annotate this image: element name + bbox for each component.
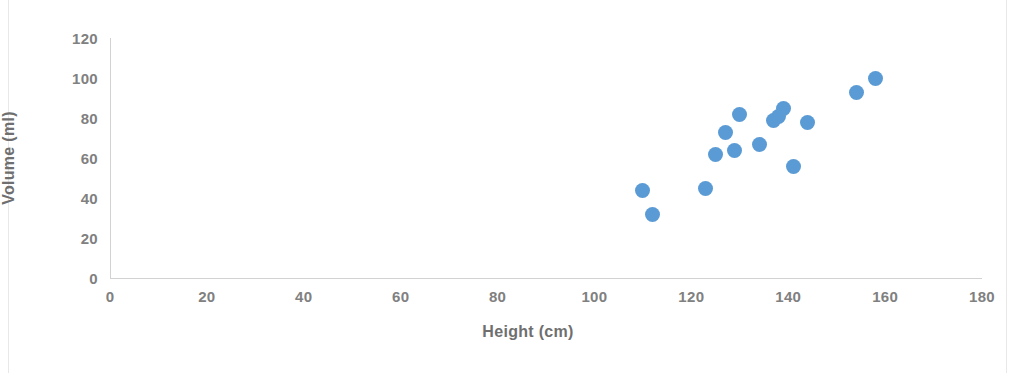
x-tick-label: 80 (489, 288, 506, 305)
x-axis-title: Height (cm) (482, 323, 573, 341)
scatter-chart-figure: 020406080100120 020406080100120140160180… (0, 0, 1016, 373)
data-point-marker (849, 85, 864, 100)
data-point-marker (645, 207, 660, 222)
data-point-marker (800, 115, 815, 130)
y-tick-label: 60 (81, 150, 98, 167)
x-tick-label: 20 (198, 288, 215, 305)
x-tick-label: 140 (775, 288, 801, 305)
data-point-marker (752, 137, 767, 152)
x-tick-label: 60 (392, 288, 409, 305)
data-point-marker (635, 183, 650, 198)
x-tick-label: 160 (872, 288, 898, 305)
y-tick-label: 120 (72, 30, 98, 47)
y-tick-label: 0 (89, 270, 98, 287)
data-point-marker (732, 107, 747, 122)
data-point-marker (868, 71, 883, 86)
page-edge-line-right (1006, 0, 1007, 373)
data-point-marker (698, 181, 713, 196)
data-point-marker (708, 147, 723, 162)
y-axis-title: Volume (ml) (0, 111, 18, 205)
x-tick-label: 180 (969, 288, 995, 305)
x-tick-label: 40 (295, 288, 312, 305)
data-point-marker (786, 159, 801, 174)
y-tick-label: 100 (72, 70, 98, 87)
x-tick-label: 100 (581, 288, 607, 305)
y-tick-label: 20 (81, 230, 98, 247)
y-tick-label: 80 (81, 110, 98, 127)
x-axis-line (110, 278, 982, 279)
data-point-marker (776, 101, 791, 116)
data-point-marker (727, 143, 742, 158)
data-point-marker (718, 125, 733, 140)
x-tick-label: 120 (678, 288, 704, 305)
x-tick-label: 0 (106, 288, 115, 305)
plot-area (110, 38, 982, 278)
y-tick-label: 40 (81, 190, 98, 207)
